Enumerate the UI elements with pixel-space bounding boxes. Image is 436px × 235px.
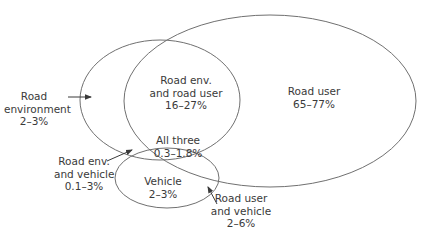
label-line: Vehicle <box>133 175 193 188</box>
label-line: Road user <box>208 192 274 205</box>
label-value: 2–6% <box>208 217 274 230</box>
label-value: 0.1–3% <box>54 180 114 193</box>
label-line: Road user <box>281 85 347 98</box>
label-road-env-and-road-user: Road env. and road user 16–27% <box>145 74 227 112</box>
label-line: Road env. <box>145 74 227 87</box>
label-road-user: Road user 65–77% <box>281 85 347 110</box>
label-line: Road env. <box>54 155 114 168</box>
label-line: and vehicle <box>208 205 274 218</box>
label-value: 16–27% <box>145 99 227 112</box>
label-all-three: All three 0.3–1.8% <box>148 134 208 159</box>
label-line: environment <box>4 103 64 116</box>
label-line: and road user <box>145 87 227 100</box>
label-road-user-and-vehicle: Road user and vehicle 2–6% <box>208 192 274 230</box>
label-line: and vehicle <box>54 168 114 181</box>
label-value: 0.3–1.8% <box>148 147 208 160</box>
label-value: 65–77% <box>281 98 347 111</box>
label-line: Road <box>4 90 64 103</box>
label-value: 2–3% <box>133 188 193 201</box>
label-road-env-and-vehicle: Road env. and vehicle 0.1–3% <box>54 155 114 193</box>
label-vehicle: Vehicle 2–3% <box>133 175 193 200</box>
label-road-environment: Road environment 2–3% <box>4 90 64 128</box>
label-value: 2–3% <box>4 115 64 128</box>
label-line: All three <box>148 134 208 147</box>
